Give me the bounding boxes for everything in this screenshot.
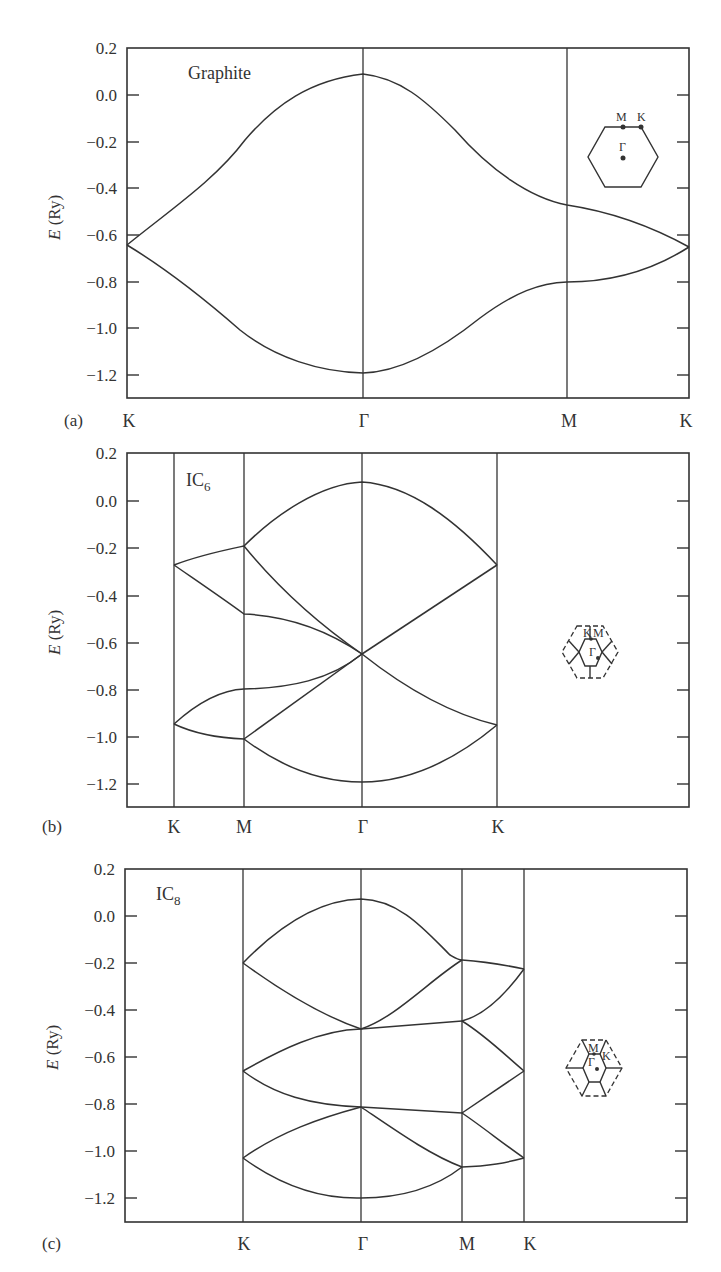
y-axis-label: E (Ry) [45, 610, 64, 656]
band [244, 654, 362, 739]
y-ticks-right [677, 95, 689, 375]
k-label: Γ [358, 1234, 368, 1254]
svg-text:−1.0: −1.0 [84, 1142, 115, 1161]
panel-title: Graphite [188, 63, 251, 83]
band [462, 1158, 524, 1167]
k-path-labels: (b) K M Γ K [42, 817, 505, 837]
panel-a: 0.2 0.0 −0.2 −0.4 −0.6 −0.8 −1.0 −1.2 E … [45, 39, 693, 431]
y-axis-label: E (Ry) [45, 195, 64, 241]
ytick-label: −0.8 [86, 273, 117, 292]
band [243, 960, 462, 1029]
svg-text:0.2: 0.2 [96, 444, 117, 463]
plot-frame [127, 453, 689, 807]
svg-text:K: K [602, 1049, 611, 1063]
y-ticks-left [127, 95, 139, 375]
k-label: M [236, 817, 252, 837]
svg-text:0.0: 0.0 [96, 492, 117, 511]
band [243, 1107, 361, 1158]
svg-text:−1.0: −1.0 [86, 728, 117, 747]
svg-text:0.0: 0.0 [94, 907, 115, 926]
band [362, 565, 497, 654]
svg-text:K: K [583, 626, 592, 640]
y-axis-label: E (Ry) [43, 1025, 62, 1071]
svg-text:−0.2: −0.2 [84, 954, 115, 973]
svg-text:Γ: Γ [589, 645, 596, 659]
k-label: Γ [359, 411, 369, 431]
svg-text:Γ: Γ [588, 1055, 595, 1069]
band [243, 899, 524, 969]
k-label: K [168, 817, 181, 837]
band [243, 1071, 462, 1113]
svg-text:Γ: Γ [619, 140, 626, 154]
band-lower [127, 245, 689, 373]
y-ticks-left [127, 501, 139, 784]
k-label: K [238, 1234, 251, 1254]
band [362, 654, 497, 725]
band [174, 546, 244, 565]
k-label: K [524, 1234, 537, 1254]
k-path-labels: (a) K Γ M K [64, 411, 693, 431]
band [174, 565, 362, 654]
brillouin-zone-inset: M K Γ [566, 1040, 622, 1096]
svg-text:M: M [616, 110, 627, 124]
svg-text:−0.4: −0.4 [86, 587, 117, 606]
panel-title: IC6 [186, 470, 211, 494]
y-ticks-right [675, 916, 687, 1198]
ytick-label: −0.2 [86, 133, 117, 152]
ytick-label: 0.2 [96, 39, 117, 58]
k-label: M [561, 411, 577, 431]
svg-text:−0.6: −0.6 [86, 634, 117, 653]
plot-frame [125, 869, 687, 1222]
svg-text:−1.2: −1.2 [84, 1189, 115, 1208]
y-tick-labels: 0.2 0.0 −0.2 −0.4 −0.6 −0.8 −1.0 −1.2 [86, 444, 117, 794]
band [174, 724, 244, 739]
svg-text:−0.8: −0.8 [86, 681, 117, 700]
panel-label: (c) [42, 1234, 61, 1253]
svg-text:K: K [637, 110, 646, 124]
k-label: K [680, 411, 693, 431]
band [361, 1107, 462, 1167]
band [244, 546, 362, 654]
svg-text:0.2: 0.2 [94, 860, 115, 879]
band-upper [127, 74, 689, 247]
ytick-label: −0.4 [86, 179, 117, 198]
ytick-label: −0.6 [86, 226, 117, 245]
svg-text:−0.6: −0.6 [84, 1048, 115, 1067]
y-ticks-right [677, 501, 689, 784]
k-label: K [123, 411, 136, 431]
band [462, 969, 524, 1021]
ytick-label: −1.0 [86, 319, 117, 338]
brillouin-zone-inset: M K Γ [588, 110, 658, 187]
svg-text:M: M [588, 1041, 599, 1055]
panel-b: 0.2 0.0 −0.2 −0.4 −0.6 −0.8 −1.0 −1.2 E … [42, 444, 689, 837]
panel-c: 0.2 0.0 −0.2 −0.4 −0.6 −0.8 −1.0 −1.2 E … [42, 860, 687, 1254]
svg-text:−0.8: −0.8 [84, 1095, 115, 1114]
band [243, 1021, 462, 1071]
svg-text:M: M [593, 626, 604, 640]
band [244, 482, 497, 565]
ytick-label: 0.0 [96, 86, 117, 105]
band-structure-figure: 0.2 0.0 −0.2 −0.4 −0.6 −0.8 −1.0 −1.2 E … [0, 0, 721, 1272]
k-label: Γ [358, 817, 368, 837]
band [244, 725, 497, 782]
ytick-label: −1.2 [86, 366, 117, 385]
svg-text:−0.2: −0.2 [86, 539, 117, 558]
band [462, 1071, 524, 1113]
band [462, 1113, 524, 1158]
k-path-labels: (c) K Γ M K [42, 1234, 537, 1254]
panel-label: (b) [42, 817, 62, 836]
y-tick-labels: 0.2 0.0 −0.2 −0.4 −0.6 −0.8 −1.0 −1.2 [84, 860, 115, 1208]
plot-frame [127, 48, 689, 398]
svg-text:−1.2: −1.2 [86, 775, 117, 794]
k-label: M [459, 1234, 475, 1254]
panel-title: IC8 [156, 884, 181, 908]
y-ticks-left [125, 916, 137, 1198]
band [462, 1021, 524, 1071]
band [243, 1158, 462, 1198]
panel-label: (a) [64, 411, 83, 430]
svg-text:−0.4: −0.4 [84, 1001, 115, 1020]
y-tick-labels: 0.2 0.0 −0.2 −0.4 −0.6 −0.8 −1.0 −1.2 [86, 39, 117, 385]
band [174, 654, 362, 724]
brillouin-zone-inset: K M Γ [562, 626, 618, 678]
k-label: K [492, 817, 505, 837]
